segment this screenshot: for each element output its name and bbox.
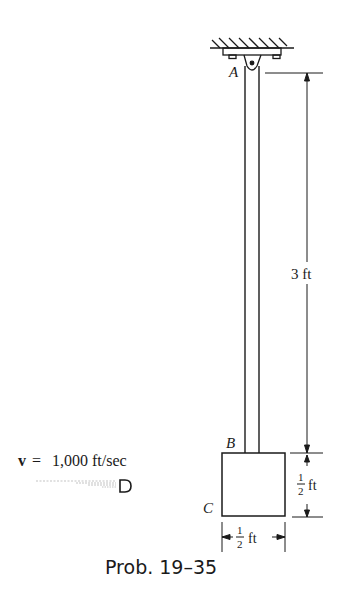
bullet-motion-streak [36, 481, 116, 487]
label-c: C [203, 500, 214, 516]
ceiling-hatch [212, 38, 287, 48]
bullet-icon [120, 480, 131, 492]
figure-caption: Prob. 19–35 [105, 556, 217, 578]
block-width-unit: ft [248, 531, 257, 546]
mounting-plate [210, 48, 294, 59]
block-height-unit: ft [308, 478, 317, 493]
block-height-num: 1 [298, 471, 304, 483]
rod-length-label: 3 ft [291, 266, 312, 282]
block-width-num: 1 [237, 524, 243, 536]
rod-ab [245, 66, 259, 453]
block-height-den: 2 [298, 485, 304, 497]
velocity-equals: = [32, 452, 41, 469]
velocity-symbol: v [18, 452, 26, 469]
block-width-den: 2 [237, 538, 243, 550]
pendulum-diagram: A B C 3 ft 1 2 ft 1 2 ft v = 1,000 ft/se… [0, 0, 345, 609]
label-b: B [226, 435, 235, 451]
block [222, 453, 285, 516]
dimension-rod-length [265, 73, 323, 453]
label-a: A [228, 64, 239, 80]
velocity-value: 1,000 ft/sec [52, 452, 127, 469]
